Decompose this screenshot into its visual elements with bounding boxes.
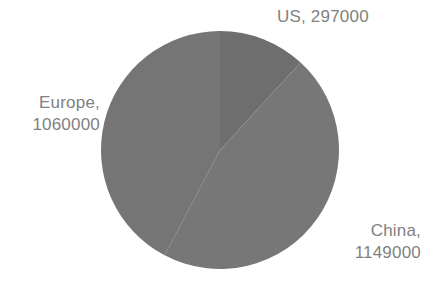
pie-slices xyxy=(101,31,339,269)
data-label-china: China, 1149000 xyxy=(330,220,421,264)
data-label-europe: Europe, 1060000 xyxy=(8,92,100,136)
data-label-us: US, 297000 xyxy=(277,6,369,28)
pie-chart-figure: US, 297000 Europe, 1060000 China, 114900… xyxy=(0,0,427,288)
